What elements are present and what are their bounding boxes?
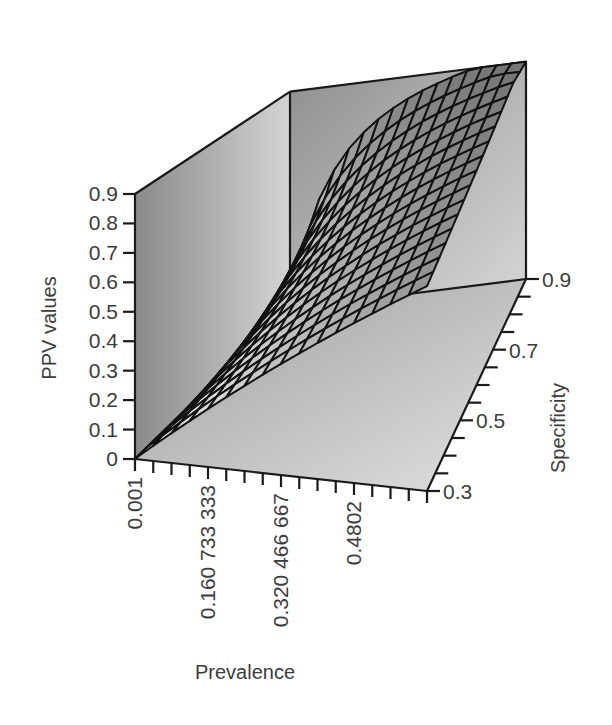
z-tick-label: 0.6 xyxy=(89,270,118,293)
x-tick-label: 0.160 733 333 xyxy=(196,485,219,619)
z-tick-label: 0.3 xyxy=(89,359,118,382)
z-axis-title: PPV values xyxy=(38,276,60,379)
y-axis-title: Specificity xyxy=(547,383,569,473)
y-tick-label: 0.3 xyxy=(443,480,472,503)
z-tick-label: 0.2 xyxy=(89,388,118,411)
z-tick-label: 0.7 xyxy=(89,241,118,264)
z-axis-ppv: 00.10.20.30.40.50.60.70.80.9 xyxy=(89,182,135,470)
x-tick-label: 0.320 466 667 xyxy=(269,493,292,627)
y-tick-label: 0.9 xyxy=(542,268,571,291)
z-tick-label: 0.4 xyxy=(89,329,119,352)
z-tick-label: 0.1 xyxy=(89,418,118,441)
z-tick-label: 0.8 xyxy=(89,211,118,234)
z-tick-label: 0 xyxy=(106,447,118,470)
x-axis-title: Prevalence xyxy=(195,661,295,683)
x-tick-label: 0.001 xyxy=(123,477,146,530)
y-tick-label: 0.5 xyxy=(476,409,505,432)
x-tick-label: 0.4802 xyxy=(342,501,365,565)
z-tick-label: 0.9 xyxy=(89,182,118,205)
y-tick-label: 0.7 xyxy=(509,339,538,362)
z-tick-label: 0.5 xyxy=(89,300,118,323)
ppv-surface-chart: 00.10.20.30.40.50.60.70.80.9 0.0010.160 … xyxy=(0,0,612,725)
